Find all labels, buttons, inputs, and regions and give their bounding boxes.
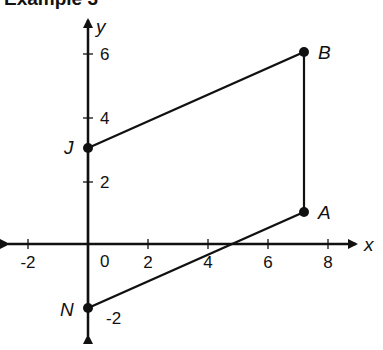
point-label-n: N xyxy=(60,299,74,320)
y-tick-label: 4 xyxy=(100,109,109,128)
point-b xyxy=(299,47,309,57)
x-axis-label: x xyxy=(363,234,375,255)
y-tick-label: 2 xyxy=(100,173,109,192)
point-label-j: J xyxy=(63,137,74,158)
x-tick-label: 6 xyxy=(263,253,272,272)
y-tick-label: -2 xyxy=(106,309,121,328)
x-tick-label: 8 xyxy=(323,253,332,272)
x-tick-label: -2 xyxy=(20,253,35,272)
x-tick-label: 2 xyxy=(143,253,152,272)
coordinate-plane: -22468246-20xy JBAN xyxy=(0,0,383,350)
point-j xyxy=(83,143,93,153)
origin-label: 0 xyxy=(100,252,109,271)
point-label-b: B xyxy=(318,42,331,63)
point-n xyxy=(83,303,93,313)
axes: -22468246-20xy xyxy=(8,16,375,336)
y-axis-label: y xyxy=(94,16,107,37)
y-tick-label: 6 xyxy=(100,45,109,64)
point-a xyxy=(299,207,309,217)
point-label-a: A xyxy=(317,202,331,223)
